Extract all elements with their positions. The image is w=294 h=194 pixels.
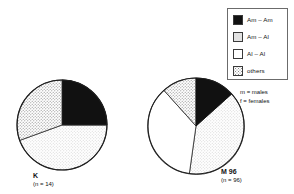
pie-right-caption: M 96 (n = 96) [221,167,242,184]
pie-chart-left [17,80,107,170]
sex-key-males: m = males [240,88,294,97]
pie-chart-right [148,78,245,174]
dotted-swatch-icon [233,66,243,76]
pie-left-slice-am-am [62,80,107,125]
legend-item-others: others [233,65,265,77]
black-swatch-icon [233,15,243,25]
pie-chart-figure: Am – Am Am – Al Al – Al others m = males… [0,0,294,194]
legend: Am – Am Am – Al Al – Al others [227,8,288,80]
legend-label-am-am: Am – Am [247,16,273,24]
legend-item-am-am: Am – Am [233,14,273,26]
pie-left-title: K [33,171,54,180]
sex-key: m = males f = females [240,88,294,106]
legend-item-am-al: Am – Al [233,31,269,43]
pie-left-caption: K (n = 14) [33,171,54,188]
sex-key-females: f = females [240,97,294,106]
lightgray-swatch-icon [233,32,243,42]
legend-item-al-al: Al – Al [233,48,265,60]
legend-label-am-al: Am – Al [247,33,269,41]
pie-left-sample-size: (n = 14) [33,180,54,188]
white-swatch-icon [233,49,243,59]
pie-right-title: M 96 [221,167,242,176]
pie-right-sample-size: (n = 96) [221,176,242,184]
legend-label-al-al: Al – Al [247,50,265,58]
legend-label-others: others [247,67,265,75]
